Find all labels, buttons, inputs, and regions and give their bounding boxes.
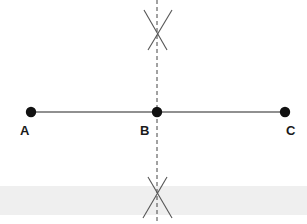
point-a-label: A xyxy=(20,124,29,137)
point-c xyxy=(280,107,290,117)
top-arc-intersection xyxy=(144,10,172,50)
point-a xyxy=(26,107,36,117)
top-arc-right xyxy=(148,10,172,50)
diagram-svg xyxy=(0,0,307,224)
construction-diagram: A B C xyxy=(0,0,307,224)
bottom-arc-right xyxy=(143,177,167,218)
point-b-label: B xyxy=(140,124,149,137)
bottom-arc-left xyxy=(148,177,172,218)
point-c-label: C xyxy=(286,124,295,137)
top-arc-left xyxy=(144,10,167,50)
point-b xyxy=(152,107,162,117)
